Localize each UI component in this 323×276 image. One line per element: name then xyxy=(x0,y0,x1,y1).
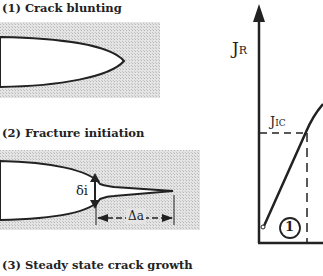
y-axis-arrow-icon xyxy=(253,4,265,22)
fracture-initiation-diagram xyxy=(0,150,200,230)
step1-label: (1) Crack blunting xyxy=(2,1,122,15)
crack-blunting-diagram xyxy=(0,22,160,98)
step3-label: (3) Steady state crack growth xyxy=(2,258,193,272)
region-1-number: 1 xyxy=(285,219,294,234)
jic-subscript: IC xyxy=(275,118,285,128)
jr-axis-label: JR xyxy=(232,38,247,58)
delta-a-label: Δa xyxy=(126,209,146,223)
jr-curve-graph xyxy=(253,4,323,243)
step2-label: (2) Fracture initiation xyxy=(2,126,144,140)
delta-i-label: δi xyxy=(76,183,88,198)
jr-symbol: J xyxy=(232,38,239,58)
jr-subscript: R xyxy=(239,44,247,57)
jic-label: JIC xyxy=(270,114,286,129)
